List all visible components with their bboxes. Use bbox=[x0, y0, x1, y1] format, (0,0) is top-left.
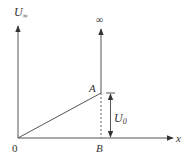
diagram-canvas: U∞ ∞ A U0 0 B x bbox=[0, 0, 191, 160]
point-A-label: A bbox=[88, 82, 96, 94]
horizontal-axis-label: x bbox=[175, 132, 181, 144]
vertical-axis-label: U∞ bbox=[14, 5, 28, 20]
point-B-label: B bbox=[96, 142, 103, 154]
infinity-label: ∞ bbox=[96, 14, 103, 25]
origin-label: 0 bbox=[12, 142, 18, 154]
line-0-to-A bbox=[18, 93, 101, 138]
dimension-label: U0 bbox=[114, 111, 127, 126]
